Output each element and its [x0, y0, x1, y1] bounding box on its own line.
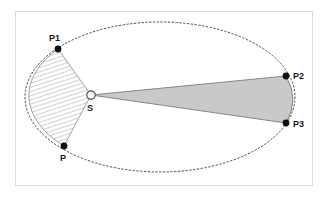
figure-root: P1 P S P2 P3	[0, 0, 327, 199]
kepler-second-law-diagram: P1 P S P2 P3	[0, 0, 327, 199]
label-p2: P2	[293, 71, 304, 81]
point-p2-marker	[283, 73, 290, 80]
label-p3: P3	[293, 119, 304, 129]
point-p1-marker	[55, 46, 62, 53]
focus-sun-marker	[87, 91, 95, 99]
point-p3-marker	[283, 120, 290, 127]
label-p1: P1	[49, 33, 60, 43]
label-p: P	[60, 153, 66, 163]
label-s: S	[87, 103, 93, 113]
near-sector-hatch-fill	[29, 49, 91, 146]
near-sector-group	[29, 49, 91, 146]
point-p-marker	[61, 143, 68, 150]
